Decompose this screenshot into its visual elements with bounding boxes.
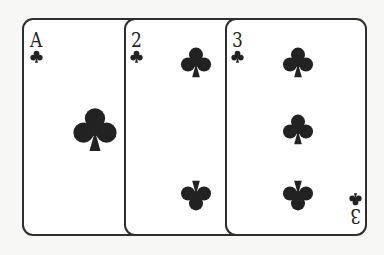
rank-label: 3	[350, 206, 361, 226]
rank-label: A	[30, 30, 42, 50]
corner-index-top-left: A	[29, 30, 43, 63]
club-icon	[282, 113, 314, 145]
corner-index-bottom-right: 3	[349, 193, 362, 226]
club-icon	[180, 46, 212, 78]
club-icon	[282, 46, 314, 78]
club-icon	[282, 180, 314, 212]
rank-label: 3	[232, 30, 243, 50]
club-icon	[180, 180, 212, 212]
rank-label: 2	[131, 30, 142, 50]
corner-index-top-left: 2	[130, 30, 143, 63]
card-three-of-clubs[interactable]: 3 3	[225, 18, 367, 236]
club-icon	[72, 106, 118, 152]
corner-index-top-left: 3	[231, 30, 244, 63]
